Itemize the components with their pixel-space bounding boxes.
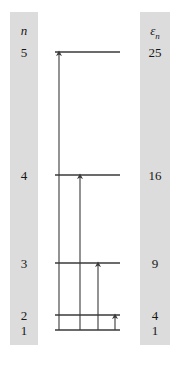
quantum-number-value-5: 5 xyxy=(10,46,38,59)
quantum-number-value-2: 2 xyxy=(10,309,38,322)
energy-value-n3: 9 xyxy=(140,257,170,270)
energy-value-n5: 25 xyxy=(140,46,170,59)
energy-value-n4: 16 xyxy=(140,169,170,182)
energy-levels-group xyxy=(55,52,120,330)
transition-arrows-group xyxy=(59,54,115,331)
energy-level-figure: n εn 525416392411 xyxy=(0,0,181,366)
energy-value-n1: 1 xyxy=(140,324,170,337)
energy-value-n2: 4 xyxy=(140,309,170,322)
quantum-number-value-4: 4 xyxy=(10,169,38,182)
quantum-number-value-1: 1 xyxy=(10,324,38,337)
quantum-number-value-3: 3 xyxy=(10,257,38,270)
